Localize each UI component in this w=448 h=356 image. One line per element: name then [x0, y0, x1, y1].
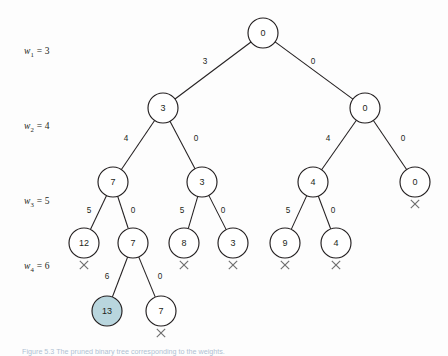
weight-label-w4: w4 = 6	[24, 261, 50, 273]
weight-label-w1: w1 = 3	[24, 46, 50, 58]
tree-node: 3	[148, 93, 178, 123]
tree-node: 4	[321, 228, 351, 258]
leaf-cross-icon	[411, 200, 419, 208]
edge-weight-label: 0	[221, 206, 226, 215]
edge-weight-label: 0	[131, 206, 136, 215]
tree-edge	[318, 196, 330, 229]
node-value-label: 0	[260, 28, 265, 38]
node-value-label: 4	[310, 177, 315, 187]
node-value-label: 7	[110, 177, 115, 187]
nodes-layer: 03073401278394137	[69, 18, 430, 326]
tree-edge	[275, 42, 353, 99]
edge-weight-label: 0	[194, 134, 199, 143]
tree-node: 0	[248, 18, 278, 48]
leaf-cross-marks-layer	[80, 200, 419, 337]
leaf-cross-icon	[332, 261, 340, 269]
node-value-label: 0	[362, 103, 367, 113]
edge-weight-label: 5	[180, 206, 185, 215]
node-value-label: 3	[160, 103, 165, 113]
edge-weight-label: 0	[401, 134, 406, 143]
tree-node: 12	[69, 228, 99, 258]
tree-node: 3	[218, 228, 248, 258]
tree-edge	[112, 257, 127, 297]
tree-node: 4	[298, 167, 328, 197]
tree-node: 7	[146, 296, 176, 326]
edge-weight-label: 5	[286, 206, 291, 215]
edge-weight-label: 4	[124, 134, 129, 143]
tree-node: 8	[169, 228, 199, 258]
tree-edge	[175, 42, 251, 99]
leaf-cross-icon	[80, 261, 88, 269]
node-value-label: 8	[181, 238, 186, 248]
weight-label-w2: w2 = 4	[24, 121, 50, 133]
tree-node: 0	[400, 167, 430, 197]
weight-label-w3: w3 = 5	[24, 196, 50, 208]
tree-node: 0	[350, 93, 380, 123]
binary-tree-diagram: 30404050505060 03073401278394137	[0, 0, 448, 356]
tree-node: 9	[270, 228, 300, 258]
figure-caption: Figure 5.3 The pruned binary tree corres…	[22, 347, 225, 356]
figure-container: 30404050505060 03073401278394137 w1 = 3 …	[0, 0, 448, 356]
tree-edge	[139, 257, 156, 297]
leaf-cross-icon	[229, 261, 237, 269]
tree-edge	[121, 120, 154, 169]
tree-edge	[291, 196, 306, 230]
tree-edge	[188, 196, 198, 228]
node-value-label: 3	[199, 177, 204, 187]
tree-edge	[373, 120, 406, 169]
edge-weight-label: 3	[203, 57, 208, 66]
leaf-cross-icon	[281, 261, 289, 269]
tree-edge	[170, 121, 195, 168]
node-value-label: 12	[79, 238, 89, 248]
edge-weight-label: 0	[311, 57, 316, 66]
tree-edge	[90, 196, 106, 230]
tree-edge	[322, 120, 357, 169]
node-value-label: 0	[412, 177, 417, 187]
tree-node: 13	[92, 296, 122, 326]
edge-weight-label: 6	[105, 272, 110, 281]
edge-weight-label: 4	[326, 134, 331, 143]
tree-node: 7	[118, 228, 148, 258]
edge-weight-label: 0	[331, 206, 336, 215]
tree-node: 7	[98, 167, 128, 197]
node-value-label: 9	[282, 238, 287, 248]
node-value-label: 4	[333, 238, 338, 248]
node-value-label: 3	[230, 238, 235, 248]
tree-edge	[118, 196, 129, 229]
leaf-cross-icon	[157, 329, 165, 337]
node-value-label: 13	[102, 306, 112, 316]
leaf-cross-icon	[180, 261, 188, 269]
node-value-label: 7	[158, 306, 163, 316]
edge-weight-label: 0	[158, 272, 163, 281]
tree-node: 3	[187, 167, 217, 197]
edge-weight-label: 5	[87, 206, 92, 215]
node-value-label: 7	[130, 238, 135, 248]
edges-layer	[90, 42, 406, 297]
